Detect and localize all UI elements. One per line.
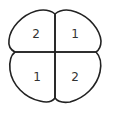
region-label-bottom-left: 1 (33, 70, 41, 84)
region-label-top-left: 2 (32, 27, 40, 41)
region-label-bottom-right: 2 (71, 70, 79, 84)
four-region-map: 2 1 1 2 (0, 0, 113, 118)
region-label-top-right: 1 (71, 27, 79, 41)
